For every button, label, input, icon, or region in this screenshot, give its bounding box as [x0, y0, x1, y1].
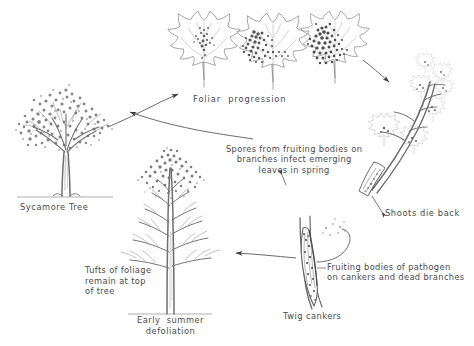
arrow-tree-to-leaves: [108, 94, 178, 127]
label-spores-infect-leaves: Spores from fruiting bodies on branches …: [226, 144, 362, 175]
infected-leaf-stage-3-illustration: [301, 11, 370, 84]
label-tufts-of-foliage: Tufts of foliage remain at top of tree: [85, 265, 151, 297]
canopy-foliage: [15, 84, 113, 151]
label-fruiting-bodies: Fruiting bodies of pathogen on cankers a…: [327, 262, 465, 282]
infected-leaf-stage-2-illustration: [237, 13, 309, 89]
disease-cycle-diagram: Foliar progression Sycamore Tree Spores …: [0, 0, 474, 346]
arrow-spores-to-tree: [130, 112, 253, 139]
dying-shoot-illustration: [359, 53, 454, 196]
arrow-leaves-to-shoot: [363, 60, 389, 82]
label-sycamore-tree: Sycamore Tree: [20, 202, 88, 212]
wilted-leaves: [368, 53, 454, 155]
canker-lesion: [301, 227, 317, 306]
label-foliar-progression: Foliar progression: [193, 94, 287, 104]
arrow-spores-leader: [282, 175, 286, 185]
infected-leaf-stage-1-illustration: [168, 11, 240, 87]
label-shoots-die-back: Shoots die back: [385, 208, 460, 218]
label-twig-cankers: Twig cankers: [283, 311, 341, 321]
spore-cloud: [322, 218, 345, 236]
arrow-shoots-die-back-leader: [372, 196, 382, 212]
arrow-cankers-to-defoliated-tree: [236, 253, 296, 258]
label-early-summer-defoliation: Early summer defoliation: [137, 315, 204, 336]
healthy-sycamore-tree-illustration: [15, 84, 113, 197]
